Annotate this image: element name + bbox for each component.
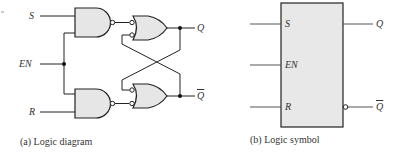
or-qbar-input-bubble-2 <box>130 101 134 105</box>
nand-gate-s <box>75 8 111 37</box>
symbol-label-q: Q <box>376 19 383 29</box>
symbol-qbar-bubble <box>343 105 348 110</box>
symbol-label-s: S <box>285 19 290 29</box>
qbar-junction-dot <box>178 94 182 98</box>
or-q-input-bubble-1 <box>130 20 134 24</box>
or-qbar-input-bubble-1 <box>130 88 134 92</box>
label-en: EN <box>19 59 32 69</box>
symbol-label-en: EN <box>285 60 298 70</box>
or-q-input-bubble-2 <box>130 33 134 37</box>
nand-gate-r <box>75 89 111 118</box>
caption-logic-symbol: (b) Logic symbol <box>250 135 319 145</box>
label-q-bar: Q <box>197 91 204 101</box>
label-r: R <box>29 107 35 117</box>
or-gate-qbar <box>133 84 167 108</box>
q-junction-dot <box>178 26 182 30</box>
label-q: Q <box>197 23 204 33</box>
en-junction-dot <box>62 62 66 66</box>
symbol-label-r: R <box>285 102 291 112</box>
caption-logic-diagram: (a) Logic diagram <box>20 137 92 147</box>
nand-r-output-bubble <box>110 101 114 105</box>
or-gate-q <box>133 16 167 40</box>
nand-s-output-bubble <box>110 20 114 24</box>
symbol-label-q-bar: Q <box>376 102 383 112</box>
label-s: S <box>29 11 34 21</box>
